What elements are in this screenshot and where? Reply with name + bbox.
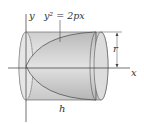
radius-label: r [113,44,118,54]
y-axis-label: y [29,11,35,21]
x-axis-label: x [131,68,137,78]
cylinder-right-face [94,32,108,100]
cylinder-paraboloid-diagram: y y² = 2px r x h [0,0,144,124]
equation-label: y² = 2px [44,11,85,21]
height-label: h [59,104,65,114]
